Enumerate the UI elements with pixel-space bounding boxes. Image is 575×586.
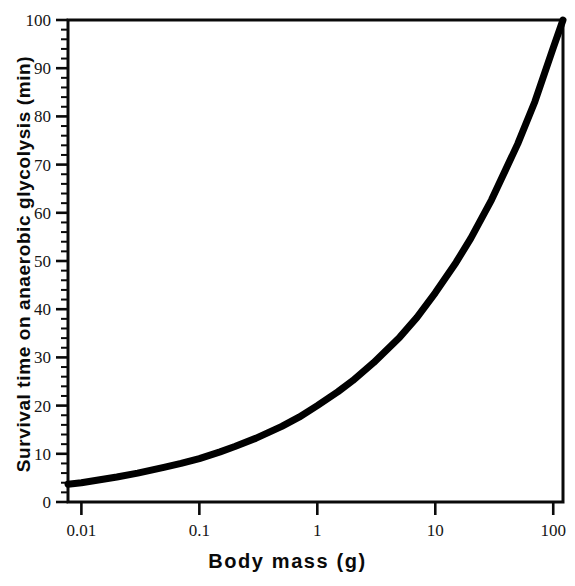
y-tick-label: 40: [34, 300, 51, 319]
x-tick-label: 100: [540, 521, 566, 540]
y-tick-label: 30: [34, 348, 51, 367]
x-axis-major-ticks: [81, 502, 553, 515]
y-tick-label: 80: [34, 107, 51, 126]
plot-frame: [68, 20, 563, 502]
y-tick-label: 70: [34, 156, 51, 175]
y-tick-label: 20: [34, 397, 51, 416]
figure-container: 0102030405060708090100 0.010.1110100 Bod…: [0, 0, 575, 586]
chart-plot: 0102030405060708090100 0.010.1110100: [0, 0, 575, 586]
x-axis-title: Body mass (g): [0, 550, 575, 573]
x-tick-label: 1: [313, 521, 322, 540]
y-axis-tick-labels: 0102030405060708090100: [26, 11, 52, 512]
x-tick-label: 0.01: [67, 521, 97, 540]
y-tick-label: 10: [34, 445, 51, 464]
axes-frame: [68, 20, 563, 502]
y-tick-label: 0: [43, 493, 52, 512]
x-tick-label: 10: [427, 521, 444, 540]
x-axis-tick-labels: 0.010.1110100: [67, 521, 566, 540]
y-tick-label: 90: [34, 59, 51, 78]
x-tick-label: 0.1: [189, 521, 210, 540]
y-tick-label: 60: [34, 204, 51, 223]
y-tick-label: 50: [34, 252, 51, 271]
y-tick-label: 100: [26, 11, 52, 30]
y-axis-major-ticks: [56, 20, 68, 502]
